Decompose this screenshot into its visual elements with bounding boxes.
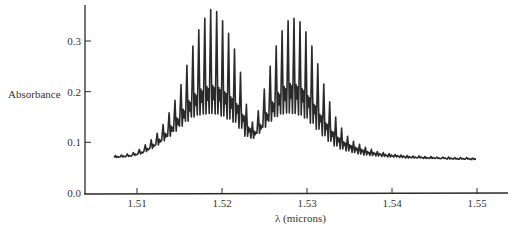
y-axis: 0.00.10.20.3 — [67, 5, 91, 199]
y-tick-label: 0.0 — [67, 187, 81, 199]
spectrum-line — [114, 10, 476, 160]
y-tick-label: 0.3 — [67, 35, 81, 47]
x-tick-label: 1.51 — [127, 197, 146, 209]
x-tick-label: 1.55 — [467, 197, 487, 209]
x-tick-label: 1.54 — [382, 197, 402, 209]
x-axis-title: λ (microns) — [275, 212, 326, 225]
x-tick-label: 1.53 — [297, 197, 317, 209]
x-axis: 1.511.521.531.541.55 — [84, 188, 508, 209]
x-tick-label: 1.52 — [212, 197, 231, 209]
y-tick-label: 0.1 — [67, 136, 81, 148]
y-tick-label: 0.2 — [67, 86, 81, 98]
spectrum-trace — [114, 10, 476, 160]
absorbance-chart: 0.00.10.20.3 1.511.521.531.541.55 Absorb… — [0, 0, 514, 232]
y-axis-title: Absorbance — [8, 88, 61, 100]
